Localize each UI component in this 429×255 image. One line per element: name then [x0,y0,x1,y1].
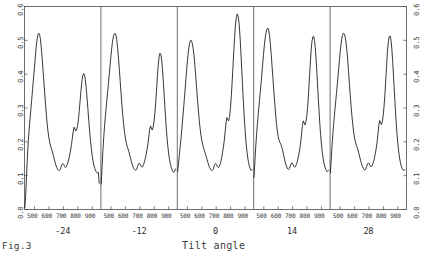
panel-label-14: 14 [283,226,301,236]
y-tick-label-right: 0.6 [412,3,421,15]
x-tick-label: 600 [118,212,128,219]
y-tick-label: 0.0 [16,206,25,218]
y-tick-label: 0.3 [16,105,25,117]
x-tick-label: 700 [285,212,295,219]
y-tick-label-right: 0.5 [412,37,421,49]
y-tick-label: 0.1 [16,172,25,184]
x-tick-label: 800 [376,212,386,219]
x-tick-label: 800 [70,212,80,219]
y-tick-label: 0.5 [16,37,25,49]
x-tick-label: 500 [27,212,37,219]
x-tick-label: 500 [256,212,266,219]
x-tick-label: 900 [238,212,248,219]
y-tick-label-right: 0.4 [412,71,421,83]
panel-label--12: -12 [130,226,148,236]
y-tick-label-right: 0.2 [412,138,421,150]
y-tick-label: 0.6 [16,3,25,15]
x-tick-label: 600 [194,212,204,219]
x-tick-label: 600 [271,212,281,219]
x-tick-label: 700 [362,212,372,219]
y-tick-label-right: 0.3 [412,105,421,117]
figure-caption: Fig.3 [2,240,32,251]
spectrum-curve--12 [101,33,175,184]
x-tick-label: 500 [180,212,190,219]
x-tick-label: 800 [223,212,233,219]
x-tick-label: 900 [314,212,324,219]
x-tick-label: 900 [161,212,171,219]
x-tick-label: 900 [390,212,400,219]
y-tick-label-right: 0.1 [412,172,421,184]
x-tick-label: 800 [147,212,157,219]
spectrum-curve-14 [254,28,328,177]
x-tick-label: 700 [132,212,142,219]
x-tick-label: 500 [333,212,343,219]
figure-container: 0.60.50.40.30.20.10.0 0.60.50.40.30.20.1… [0,0,429,255]
x-tick-label: 700 [209,212,219,219]
y-tick-label: 0.2 [16,138,25,150]
x-tick-label: 600 [347,212,357,219]
x-tick-label: 800 [300,212,310,219]
spectrum-curve-28 [330,33,404,173]
spectrum-curve-0 [178,14,252,172]
x-tick-label: 600 [42,212,52,219]
panel-label-28: 28 [359,226,377,236]
x-tick-label: 900 [85,212,95,219]
panel-label-0: 0 [207,226,225,236]
x-tick-label: 700 [56,212,66,219]
spectrum-curve--24 [25,33,99,208]
x-tick-label: 500 [103,212,113,219]
x-axis-title: Tilt angle [182,240,245,251]
panel-label--24: -24 [54,226,72,236]
y-tick-label-right: 0.0 [412,206,421,218]
y-tick-label: 0.4 [16,71,25,83]
